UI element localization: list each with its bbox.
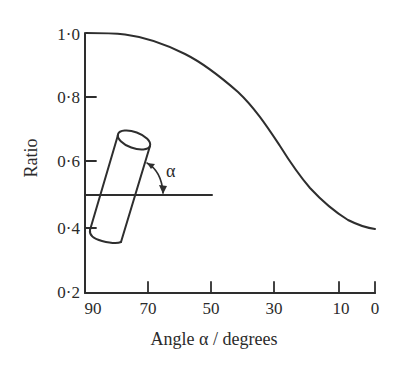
axes (85, 33, 375, 293)
y-tick-label: 0·6 (57, 152, 80, 171)
y-tick-label: 1·0 (57, 25, 80, 44)
x-tick-label: 90 (85, 299, 102, 318)
x-tick-label: 10 (333, 299, 350, 318)
x-tick-label: 30 (266, 299, 283, 318)
y-tick-label: 0·8 (57, 88, 80, 107)
y-axis-label: Ratio (21, 139, 41, 178)
cylinder-left-edge (90, 135, 118, 230)
inset-diagram: α (85, 127, 212, 243)
cylinder-bottom-edge (90, 230, 121, 243)
x-tick-label: 70 (140, 299, 157, 318)
y-ticks (85, 97, 96, 228)
x-tick-label: 0 (371, 299, 380, 318)
x-tick-labels: 90 70 50 30 10 0 (85, 299, 380, 318)
chart: 1·0 0·8 0·6 0·4 0·2 90 70 50 30 10 0 Ang… (0, 0, 396, 369)
x-tick-label: 50 (203, 299, 220, 318)
x-axis-label: Angle α / degrees (151, 329, 278, 349)
cylinder-top-ellipse (115, 127, 152, 154)
y-tick-labels: 1·0 0·8 0·6 0·4 0·2 (57, 25, 80, 302)
y-tick-label: 0·2 (57, 283, 80, 302)
x-ticks (148, 282, 375, 293)
arrowhead-icon (159, 185, 167, 194)
angle-alpha-label: α (166, 161, 176, 181)
y-tick-label: 0·4 (57, 219, 80, 238)
